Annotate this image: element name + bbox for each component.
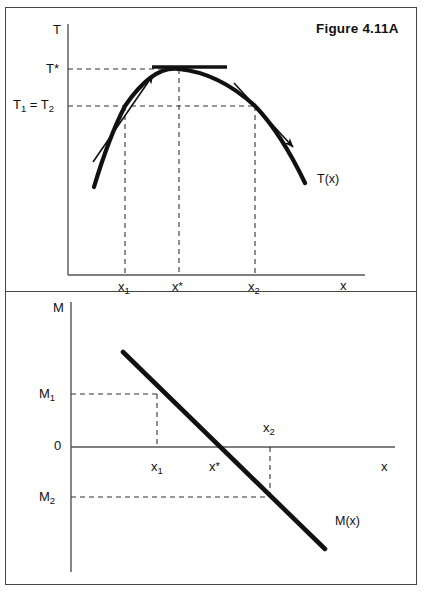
figure-label-a: Figure 4.11A (316, 21, 399, 36)
scan-artifact-text: · · · · (110, 0, 144, 4)
panel-b-xtick-xstar-sup: * (216, 460, 220, 472)
panel-a-ytick-t1-sub: 1 (21, 103, 26, 114)
panel-a-y-axis-title: T (53, 22, 61, 37)
panel-b-xtick-x2: x2 (263, 420, 275, 435)
panel-b-x-axis-title: x (381, 459, 388, 474)
panel-a-ytick-tstar-text: T* (46, 61, 59, 76)
panel-b-y-axis-title: M (53, 300, 64, 315)
panel-a-curve-label: T(x) (317, 172, 339, 186)
panel-b-xtick-xstar: x* (209, 459, 220, 474)
panel-b-ytick-m2-base: M (39, 489, 50, 504)
panel-a-ytick-t1-eq-t2: T1 = T2 (13, 97, 54, 112)
figure-root: · · · · (0, 0, 424, 593)
panel-b-ytick-m2-sub: 2 (50, 495, 55, 506)
panel-a-ytick-tstar: T* (46, 61, 59, 76)
panel-a-plot (5, 7, 417, 292)
panel-a-ytick-eq-t2: = T (26, 97, 49, 112)
panel-a-tangent-x2 (234, 83, 293, 147)
panel-b-plot (5, 292, 417, 585)
panel-a-x-axis-title: x (340, 278, 347, 293)
panel-figure-4-11a: Figure 4.11A T T* T1 = T2 x1 x* x2 x T(x… (5, 7, 417, 292)
panel-b-ytick-m1-base: M (39, 386, 50, 401)
scan-artifact: · · · · (0, 0, 424, 7)
panel-b-xtick-x2-base: x (263, 420, 270, 435)
panel-a-tangent-x1 (93, 75, 153, 162)
panel-b-xtick-x2-sub: 2 (270, 426, 275, 437)
panel-a-curve-tx (94, 69, 305, 187)
panel-b-curve-label: M(x) (335, 514, 360, 528)
panel-a-ytick-t1-base: T (13, 97, 21, 112)
panel-b-xtick-xstar-base: x (209, 459, 216, 474)
panel-b-ytick-m2: M2 (39, 489, 55, 504)
panel-b-xtick-x1: x1 (151, 459, 163, 474)
panel-a-ytick-t2-sub: 2 (49, 103, 54, 114)
panel-b-line-mx (123, 352, 325, 549)
panel-b-ytick-zero: 0 (54, 438, 61, 453)
panel-b-xtick-x1-base: x (151, 459, 158, 474)
panel-figure-4-11b: Figure 4.11B M M1 0 M2 x1 x* x2 x M(x) (5, 292, 417, 585)
panel-a-xtick-xstar-sup: * (179, 280, 183, 292)
panel-b-ytick-m1-sub: 1 (50, 392, 55, 403)
panel-b-ytick-m1: M1 (39, 386, 55, 401)
panel-b-xtick-x1-sub: 1 (158, 465, 163, 476)
